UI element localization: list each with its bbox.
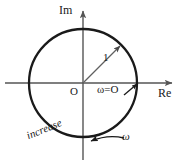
omega-direction-label: ω bbox=[122, 131, 130, 142]
omega-zero-label: ω=O bbox=[97, 84, 118, 95]
omega-direction-arrow bbox=[91, 137, 124, 141]
radius-length-label: 1 bbox=[103, 52, 109, 63]
unit-circle-figure: Im Re O 1 ω=O ω increase bbox=[0, 0, 184, 164]
real-axis-label: Re bbox=[158, 87, 171, 99]
radius-arrow bbox=[84, 46, 120, 82]
origin-label: O bbox=[70, 86, 78, 97]
imaginary-axis-label: Im bbox=[59, 4, 72, 16]
